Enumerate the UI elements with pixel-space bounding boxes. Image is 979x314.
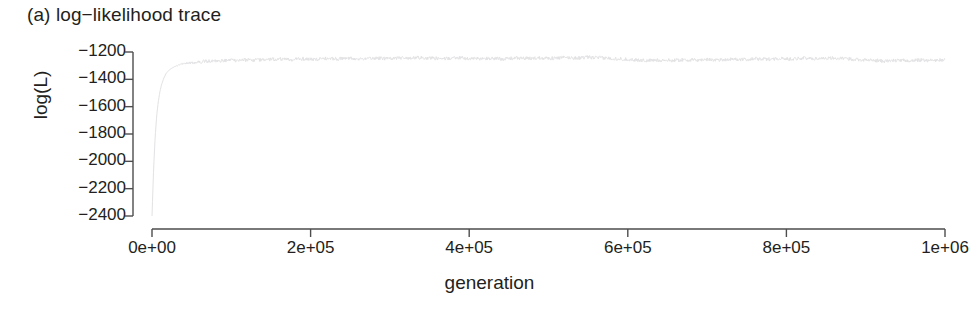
- trace-line: [152, 56, 945, 216]
- data-series-group: [152, 56, 945, 216]
- plot-area: [0, 0, 979, 314]
- axis-lines: [125, 52, 945, 237]
- figure-panel: (a) log−likelihood trace log(L) −1200−14…: [0, 0, 979, 314]
